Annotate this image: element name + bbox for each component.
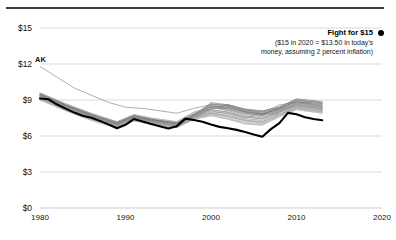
annotation-title-row: Fight for $15 [154,28,384,37]
x-tick-label-1980: 1980 [20,213,60,222]
filled-circle-icon [378,30,384,36]
annotation-subtitle-line-2: money, assuming 2 percent inflation) [154,47,373,56]
x-tick-label-2000: 2000 [191,213,231,222]
annotation-subtitle-line-1: ($15 in 2020 = $13.50 in today's [154,38,373,47]
y-tick-label-usd-9: $9 [2,95,32,105]
series-line-federal-minimum-wage [40,99,322,137]
series-label-ak: AK [35,55,46,64]
series-lines-group [40,66,322,136]
fight-for-15-annotation: Fight for $15 ($15 in 2020 = $13.50 in t… [154,28,384,56]
x-tick-label-2020: 2020 [362,213,396,222]
annotation-subtitle: ($15 in 2020 = $13.50 in today's money, … [154,38,384,56]
x-tick-label-2010: 2010 [277,213,317,222]
y-tick-label-usd-0: $0 [2,203,32,213]
x-tick-label-1990: 1990 [106,213,146,222]
y-tick-label-usd-6: $6 [2,131,32,141]
y-tick-label-usd-3: $3 [2,167,32,177]
y-tick-label-usd-12: $12 [2,59,32,69]
y-tick-label-usd-15: $15 [2,23,32,33]
annotation-title: Fight for $15 [327,28,373,37]
